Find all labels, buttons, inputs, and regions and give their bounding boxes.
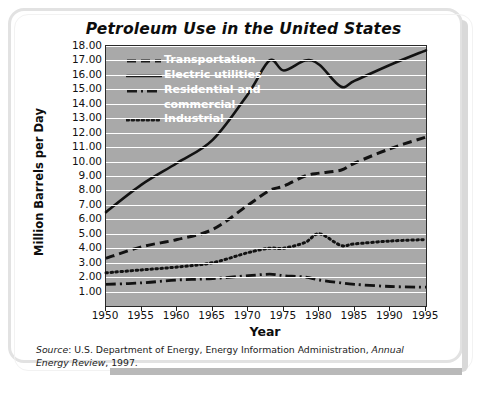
y-tick-label: 11.00	[72, 140, 102, 152]
source-text-1: : U.S. Department of Energy, Energy Info…	[68, 344, 371, 355]
y-tick-label: 7.00	[79, 198, 102, 210]
source-label: Source	[36, 344, 68, 355]
gridline	[106, 277, 426, 278]
gridline	[106, 75, 426, 76]
y-tick-label: 18.00	[72, 39, 102, 51]
gridline	[106, 60, 426, 61]
legend-label-continued: commercial	[164, 98, 286, 112]
x-axis-title: Year	[105, 324, 425, 339]
gridline	[106, 104, 426, 105]
gridline	[106, 248, 426, 249]
source-text-2: , 1997.	[105, 357, 138, 368]
gridline	[106, 190, 426, 191]
figure-shadow-right	[462, 20, 468, 372]
x-axis-tick-labels: 1950195519601965197019751980198519901995	[105, 309, 425, 325]
gridline	[106, 176, 426, 177]
x-tick-label: 1950	[92, 309, 119, 321]
y-tick-label: 4.00	[79, 241, 102, 253]
gridline	[106, 147, 426, 148]
y-tick-label: 8.00	[79, 183, 102, 195]
x-tick-label: 1955	[127, 309, 154, 321]
series-line-transportation	[106, 137, 426, 258]
y-tick-label: 13.00	[72, 111, 102, 123]
y-axis-tick-labels: 1.002.003.004.005.006.007.008.009.0010.0…	[52, 45, 102, 305]
gridline	[106, 219, 426, 220]
gridline	[106, 46, 426, 47]
x-tick-label: 1970	[234, 309, 261, 321]
y-tick-label: 5.00	[79, 227, 102, 239]
y-tick-label: 10.00	[72, 155, 102, 167]
x-tick-label: 1975	[269, 309, 296, 321]
y-tick-label: 15.00	[72, 82, 102, 94]
x-tick-label: 1990	[376, 309, 403, 321]
chart-title: Petroleum Use in the United States	[0, 20, 487, 38]
y-tick-label: 9.00	[79, 169, 102, 181]
x-tick-label: 1960	[163, 309, 190, 321]
source-note: Source: U.S. Department of Energy, Energ…	[36, 343, 436, 369]
y-tick-label: 17.00	[72, 53, 102, 65]
gridline	[106, 89, 426, 90]
x-tick-label: 1995	[412, 309, 439, 321]
y-tick-label: 14.00	[72, 97, 102, 109]
x-tick-label: 1965	[198, 309, 225, 321]
chart-figure: Petroleum Use in the United States Milli…	[0, 0, 487, 400]
gridline	[106, 133, 426, 134]
y-tick-label: 16.00	[72, 68, 102, 80]
gridline	[106, 118, 426, 119]
y-tick-label: 12.00	[72, 126, 102, 138]
series-line-industrial	[106, 234, 426, 273]
x-tick-label: 1980	[305, 309, 332, 321]
y-tick-label: 1.00	[79, 285, 102, 297]
gridline	[106, 205, 426, 206]
gridline	[106, 263, 426, 264]
gridline	[106, 234, 426, 235]
y-axis-title: Million Barrels per Day	[32, 67, 46, 297]
plot-area: TransportationElectric utilitiesResident…	[105, 45, 427, 307]
x-tick-label: 1985	[341, 309, 368, 321]
figure-shadow-bottom	[110, 368, 462, 375]
gridline	[106, 292, 426, 293]
y-tick-label: 3.00	[79, 256, 102, 268]
y-tick-label: 2.00	[79, 270, 102, 282]
y-tick-label: 6.00	[79, 212, 102, 224]
gridline	[106, 162, 426, 163]
